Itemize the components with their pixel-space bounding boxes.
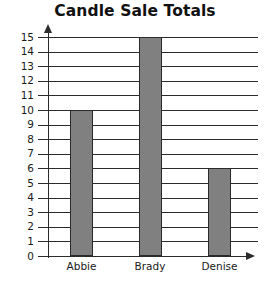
y-axis-tick-label: 10 xyxy=(8,105,34,116)
y-axis-tick-label: 4 xyxy=(8,192,34,203)
y-axis-tick-label: 12 xyxy=(8,75,34,86)
y-axis-tick xyxy=(38,154,48,155)
y-axis-tick xyxy=(38,212,48,213)
x-axis-tick-label: Brady xyxy=(115,260,185,272)
y-axis-tick-label: 13 xyxy=(8,61,34,72)
y-axis-tick xyxy=(38,81,48,82)
x-axis-arrow-icon xyxy=(246,252,255,260)
y-axis-tick-label: 8 xyxy=(8,134,34,145)
y-axis-tick xyxy=(38,256,48,257)
plot-area: 1514131211109876543210 AbbieBradyDenise xyxy=(0,0,270,290)
y-axis-tick xyxy=(38,168,48,169)
y-axis-tick xyxy=(38,198,48,199)
x-axis-line xyxy=(48,256,247,257)
y-axis-line xyxy=(48,30,49,258)
y-axis-tick-label: 0 xyxy=(8,251,34,262)
bar-brady xyxy=(139,37,162,256)
x-axis-tick-label: Abbie xyxy=(47,260,117,272)
y-axis-tick xyxy=(38,66,48,67)
y-axis-tick-label: 15 xyxy=(8,32,34,43)
y-axis-tick-label: 7 xyxy=(8,148,34,159)
bar-denise xyxy=(208,168,231,256)
y-axis-arrow-icon xyxy=(44,24,52,33)
x-axis-tick-label: Denise xyxy=(185,260,255,272)
y-axis-tick-label: 9 xyxy=(8,119,34,130)
y-axis-tick xyxy=(38,183,48,184)
y-axis-tick xyxy=(38,125,48,126)
y-axis-tick-label: 6 xyxy=(8,163,34,174)
y-axis-tick-label: 14 xyxy=(8,46,34,57)
y-axis-tick xyxy=(38,37,48,38)
y-axis-tick xyxy=(38,139,48,140)
bar-chart: Candle Sale Totals 151413121110987654321… xyxy=(0,0,270,290)
y-axis-tick xyxy=(38,110,48,111)
y-axis-tick xyxy=(38,241,48,242)
y-axis-tick xyxy=(38,227,48,228)
y-axis-tick-label: 3 xyxy=(8,207,34,218)
y-axis-tick-label: 2 xyxy=(8,221,34,232)
y-axis-tick xyxy=(38,95,48,96)
y-axis-tick xyxy=(38,52,48,53)
y-axis-tick-label: 11 xyxy=(8,90,34,101)
y-axis-tick-label: 1 xyxy=(8,236,34,247)
y-axis-tick-label: 5 xyxy=(8,178,34,189)
bar-abbie xyxy=(70,110,93,256)
